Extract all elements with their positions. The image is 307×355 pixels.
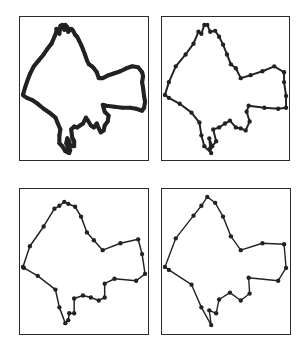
contour-vertex-marker (199, 32, 203, 36)
contour-vertex-marker (174, 64, 178, 68)
contour-vertex-marker (207, 136, 211, 140)
contour-vertex-marker (42, 107, 46, 111)
contour-vertex-marker (124, 66, 128, 70)
contour-vertex-marker (209, 151, 213, 155)
contour-vertex-marker (244, 128, 248, 132)
contour-vertex-marker (191, 41, 195, 45)
contour-vertex-marker (89, 295, 93, 299)
contour-vertex-marker (221, 214, 225, 218)
contour-vertex-marker (174, 236, 178, 240)
contour-vertex-marker (50, 42, 54, 46)
contour-vertex-marker (36, 102, 40, 106)
contour-vertex-marker (66, 30, 70, 34)
contour-vertex-marker (103, 124, 107, 128)
contour-vertex-marker (84, 116, 88, 120)
contour-vertex-marker (234, 125, 238, 129)
contour-polygon (23, 202, 145, 323)
contour-vertex-marker (23, 86, 27, 90)
contour-vertex-marker (22, 266, 26, 270)
contour-vertex-marker (72, 144, 76, 148)
contour-vertex-marker (239, 126, 243, 130)
contour-vertex-marker (208, 146, 212, 150)
contour-vertex-marker (101, 76, 105, 80)
contour-vertex-marker (57, 305, 61, 309)
contour-vertex-marker (228, 118, 232, 122)
contour-vertex-marker (70, 135, 74, 139)
contour-vertex-marker (189, 283, 193, 287)
contour-vertex-marker (213, 201, 217, 205)
contour-vertex-marker (85, 230, 89, 234)
contour-vertex-marker (69, 128, 73, 132)
contour-vertex-marker (77, 39, 81, 43)
contour-vertex-marker (167, 80, 171, 84)
contour-vertex-marker (103, 282, 107, 286)
contour-vertex-marker (83, 53, 87, 57)
contour-vertex-marker (52, 207, 56, 211)
contour-vertex-marker (143, 100, 147, 104)
contour-vertex-marker (140, 70, 144, 74)
contour-vertex-marker (81, 48, 85, 52)
contour-vertex-marker (205, 195, 209, 199)
contour-vertex-marker (97, 76, 101, 80)
contour-polygon (165, 25, 286, 153)
contour-vertex-marker (106, 120, 110, 124)
contour-vertex-marker (95, 122, 99, 126)
contour-vertex-marker (58, 32, 62, 36)
contour-vertex-marker (112, 277, 116, 281)
contour-vertex-marker (282, 70, 286, 74)
contour-vertex-marker (211, 127, 215, 131)
contour-polygon (165, 197, 286, 325)
contour-vertex-marker (72, 139, 76, 143)
contour-vertex-marker (101, 248, 105, 252)
contour-vertex-marker (32, 64, 36, 68)
contour-vertex-marker (141, 74, 145, 78)
contour-vertex-marker (48, 111, 52, 115)
contour-vertex-marker (229, 62, 233, 66)
contour-panel-original (19, 16, 149, 161)
contour-vertex-marker (58, 133, 62, 137)
contour-vertex-marker (113, 105, 117, 109)
contour-vertex-marker (42, 53, 46, 57)
contour-vertex-marker (22, 94, 26, 98)
contour-vertex-marker (209, 323, 213, 327)
contour-vertex-marker (55, 27, 59, 31)
contour-vertex-marker (58, 141, 62, 145)
contour-vertex-marker (103, 110, 107, 114)
contour-vertex-marker (239, 248, 243, 252)
contour-vertex-marker (260, 241, 264, 245)
contour-vertex-marker (89, 124, 93, 128)
contour-vertex-marker (229, 234, 233, 238)
contour-vertex-marker (140, 252, 144, 256)
contour-vertex-marker (167, 268, 171, 272)
contour-vertex-marker (272, 64, 276, 68)
contour-vertex-marker (221, 42, 225, 46)
contour-vertex-marker (118, 241, 122, 245)
contour-vertex-marker (113, 71, 117, 75)
contour-vertex-marker (41, 224, 45, 228)
contour-vertex-marker (25, 80, 29, 84)
contour-vertex-marker (208, 30, 212, 34)
contour-vertex-marker (58, 128, 62, 132)
contour-vertex-marker (167, 96, 171, 100)
contour-vertex-marker (239, 76, 243, 80)
contour-vertex-marker (213, 29, 217, 33)
contour-vertex-marker (121, 106, 125, 110)
contour-vertex-marker (67, 151, 71, 155)
contour-vertex-marker (101, 103, 105, 107)
contour-vertex-marker (143, 272, 147, 276)
contour-vertex-marker (105, 104, 109, 108)
contour-vertex-marker (53, 287, 57, 291)
contour-vertex-marker (247, 119, 251, 123)
contour-vertex-marker (140, 80, 144, 84)
contour-vertex-marker (92, 66, 96, 70)
contour-vertex-marker (60, 144, 64, 148)
contour-vertex-marker (199, 133, 203, 137)
contour-vertex-marker (28, 244, 32, 248)
contour-vertex-marker (36, 274, 40, 278)
fish-contour-plot (162, 189, 290, 334)
contour-vertex-marker (134, 279, 138, 283)
contour-vertex-marker (66, 202, 70, 206)
contour-vertex-marker (245, 110, 249, 114)
contour-vertex-marker (217, 125, 221, 129)
contour-vertex-marker (276, 107, 280, 111)
